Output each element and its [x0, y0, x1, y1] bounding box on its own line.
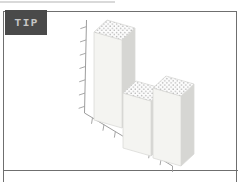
tip-badge: TIP	[5, 10, 47, 35]
tip-badge-label: TIP	[13, 17, 39, 29]
chart-bars	[94, 20, 194, 166]
